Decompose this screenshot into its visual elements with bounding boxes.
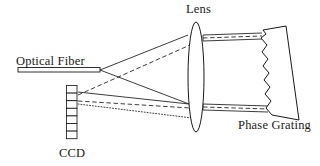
ccd-cell: [67, 93, 78, 101]
ccd-cell: [67, 116, 78, 124]
ccd-label: CCD: [59, 146, 85, 161]
lens-label: Lens: [186, 2, 211, 17]
ccd-cell: [67, 101, 78, 109]
ray-dashed-lens-to-grating-lower: [203, 107, 268, 109]
lens-body: [188, 22, 204, 132]
phase-grating-label: Phase Grating: [238, 118, 311, 133]
ccd-cell: [67, 86, 78, 94]
ray-solid-lens-to-grating-lower-b: [203, 110, 268, 112]
lens-component: [188, 22, 204, 132]
ray-solid-fiber-to-lens-top: [100, 35, 188, 70]
ccd-cell: [67, 131, 78, 139]
solid-ray-bundle: [78, 33, 268, 112]
dotted-ray-bundle: [78, 104, 192, 118]
optical-fiber-label: Optical Fiber: [16, 54, 85, 69]
ray-solid-lens-to-grating-upper-b: [203, 39, 262, 41]
diagram-canvas: [0, 0, 320, 166]
ray-solid-lens-to-grating-lower-a: [203, 104, 268, 106]
optical-diagram-figure: Optical Fiber Lens Phase Grating CCD: [0, 0, 320, 166]
ray-dashed-lens-to-grating-upper: [203, 36, 262, 38]
ccd-component: [67, 86, 78, 139]
ray-solid-lens-to-grating-upper-a: [203, 33, 262, 35]
ray-dotted-ccd-to-lens-bottom: [78, 104, 192, 118]
ccd-cell: [67, 124, 78, 132]
ccd-cell: [67, 108, 78, 116]
